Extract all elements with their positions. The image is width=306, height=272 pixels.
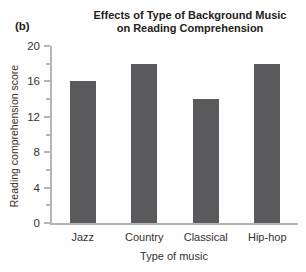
x-category-label: Jazz [52,231,114,243]
y-tick-minor [46,204,50,206]
bar-hip-hop [254,64,280,223]
x-axis-title: Type of music [50,250,298,262]
bar-classical [193,99,219,223]
panel-label: (b) [15,20,30,32]
y-tick-label: 8 [16,145,40,159]
chart-title-line2: on Reading Comprehension [72,22,306,35]
plot-area: 048121620JazzCountryClassicalHip-hop [50,46,298,225]
y-tick-label: 16 [16,74,40,88]
chart-title-line1: Effects of Type of Background Music [72,9,306,22]
figure: (b) Effects of Type of Background Music … [0,0,306,272]
y-tick-major [44,151,50,153]
chart-title: Effects of Type of Background Music on R… [72,9,306,35]
bar-jazz [70,81,96,223]
bar-country [131,64,157,223]
y-tick-minor [46,63,50,65]
y-tick-label: 4 [16,181,40,195]
y-tick-minor [46,134,50,136]
y-tick-major [44,116,50,118]
x-category-label: Country [113,231,175,243]
y-tick-minor [46,98,50,100]
x-category-label: Classical [175,231,237,243]
y-tick-major [44,187,50,189]
y-tick-major [44,45,50,47]
y-tick-major [44,222,50,224]
y-tick-label: 20 [16,39,40,53]
x-category-label: Hip-hop [236,231,298,243]
y-tick-label: 0 [16,216,40,230]
y-tick-label: 12 [16,110,40,124]
y-tick-minor [46,169,50,171]
y-tick-major [44,80,50,82]
